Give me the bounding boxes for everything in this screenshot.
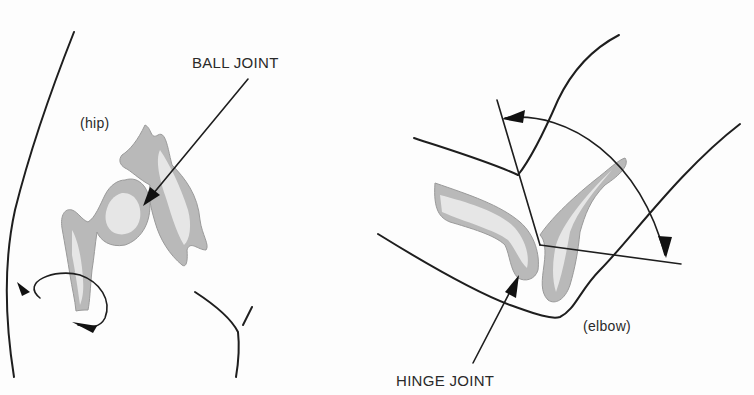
hip-illustration [7,32,252,377]
upper-arm-top [414,138,518,175]
hinge-joint-label: HINGE JOINT [396,372,494,389]
hinge-joint-pointer [473,282,515,363]
ball-joint-label: BALL JOINT [192,54,279,71]
elbow-region-label: (elbow) [583,318,631,334]
joint-diagram: BALL JOINT (hip) (elbow) HINGE JOINT [0,0,754,395]
hinge-joint-arrowhead [505,275,519,298]
humerus-bone [435,183,539,280]
forearm-top [518,35,619,175]
flexion-arrowhead-bottom [658,236,672,258]
forearm-bone [540,158,626,302]
thigh-outline [195,292,239,377]
rotation-arrowhead-right [72,322,97,333]
hip-body-outline [7,32,74,377]
hip-region-label: (hip) [80,115,110,131]
flexion-arrowhead-top [502,110,525,123]
thigh-mark [243,307,252,325]
diagram-drawing [0,0,754,395]
rotation-arrowhead-left [17,282,30,296]
elbow-illustration [378,35,740,363]
